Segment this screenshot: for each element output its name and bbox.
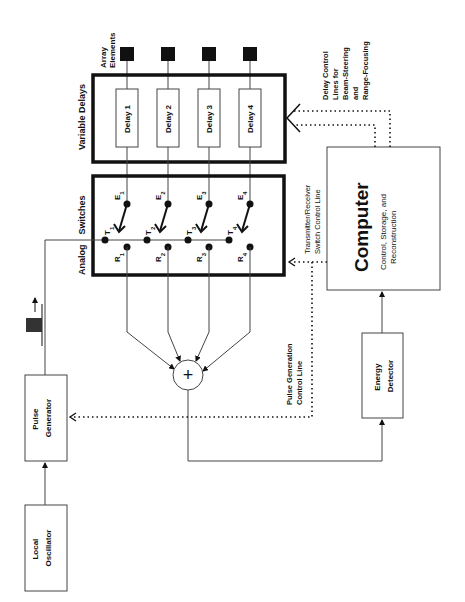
switch-r1-label: R1 bbox=[113, 252, 125, 262]
pulse-waveform-icon bbox=[26, 298, 42, 346]
switch-t2-label: T2 bbox=[144, 226, 156, 235]
ultrasound-system-diagram: Array Elements Variable Delays Delay 1 D… bbox=[0, 0, 465, 602]
switch-r2-label: R2 bbox=[154, 252, 166, 262]
delay-4-label: Delay 4 bbox=[246, 104, 255, 133]
analog-switches-label: AnalogSwitches bbox=[77, 195, 87, 275]
delay-1-label: Delay 1 bbox=[123, 104, 132, 133]
switch-e1-label: E1 bbox=[113, 191, 125, 200]
array-element-4 bbox=[243, 47, 257, 61]
array-elements bbox=[120, 47, 257, 61]
switch-e2-label: E2 bbox=[154, 191, 166, 200]
array-element-3 bbox=[202, 47, 216, 61]
switch-t4-label: T4 bbox=[226, 226, 238, 235]
delay-3-label: Delay 3 bbox=[205, 104, 214, 133]
array-elements-label: Array Elements bbox=[99, 32, 117, 68]
delay-control-arrowhead bbox=[287, 104, 300, 132]
variable-delays-label: Variable Delays bbox=[77, 84, 87, 150]
summer-plus-icon: + bbox=[183, 365, 194, 385]
delay-2-label: Delay 2 bbox=[164, 104, 173, 133]
delay-control-label: Delay Control Lines for Beam-Steering an… bbox=[321, 41, 370, 100]
computer-title: Computer bbox=[351, 182, 372, 272]
switch-e4-label: E4 bbox=[236, 191, 248, 200]
delay-boxes bbox=[116, 89, 261, 147]
switch-e3-label: E3 bbox=[195, 191, 207, 200]
switch-r3-label: R3 bbox=[195, 252, 207, 262]
pulse-gen-control-label: Pulse Generation Control Line bbox=[285, 341, 304, 405]
energy-detector-block bbox=[362, 333, 403, 418]
switch-t1-label: T1 bbox=[103, 226, 115, 235]
array-element-1 bbox=[120, 47, 134, 61]
tr-switch-control-label: Transmitter/Receiver Switch Control Line bbox=[303, 183, 322, 254]
switch-r4-label: R4 bbox=[236, 252, 248, 262]
array-element-2 bbox=[161, 47, 175, 61]
switch-t3-label: T3 bbox=[185, 226, 197, 235]
